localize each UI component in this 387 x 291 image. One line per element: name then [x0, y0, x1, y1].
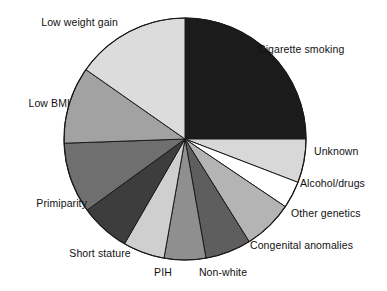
slice-label-short-stature: Short stature	[54, 247, 146, 259]
slice-label-other-genetics: Other genetics	[291, 207, 385, 219]
slice-label-non-white: Non-white	[190, 266, 256, 278]
slice-label-congenital-anomalies: Congenital anomalies	[250, 239, 384, 251]
slice-label-unknown: Unknown	[314, 145, 384, 157]
slice-label-alcohol-drugs: Alcohol/drugs	[300, 177, 386, 189]
pie-chart: Low weight gain Cigarette smoking Low BM…	[0, 0, 387, 291]
pie-slice-cigarette-smoking	[185, 18, 306, 139]
slice-label-low-weight-gain: Low weight gain	[6, 16, 118, 28]
slice-label-primiparity: Primiparity	[6, 197, 87, 209]
slice-label-pih: PIH	[147, 266, 179, 278]
slice-label-low-bmi: Low BMI	[6, 97, 70, 109]
slice-label-cigarette-smoking: Cigarette smoking	[258, 43, 384, 55]
